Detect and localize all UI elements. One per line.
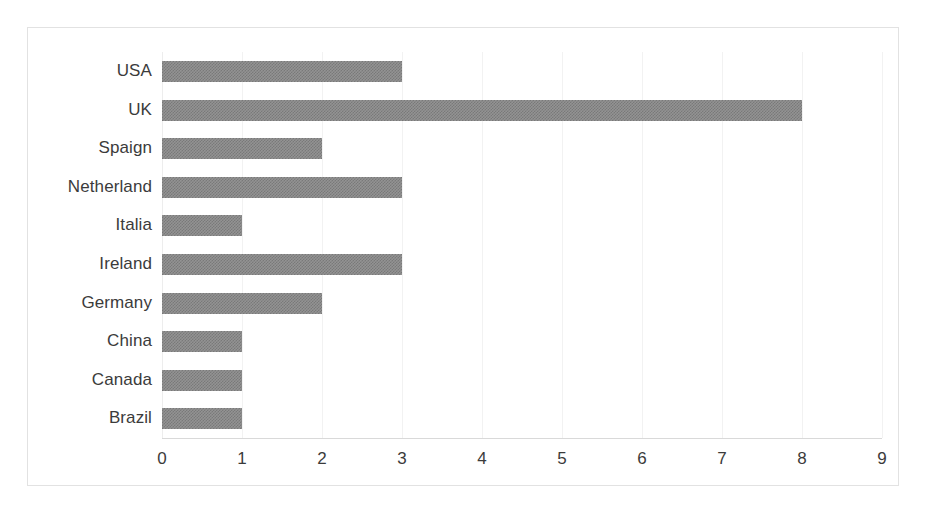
category-label: Netherland xyxy=(68,168,152,207)
chart-plot-frame: USAUKSpaignNetherlandItaliaIrelandGerman… xyxy=(27,27,899,486)
x-tick-label: 7 xyxy=(702,444,742,474)
category-label: Ireland xyxy=(99,245,152,284)
bar-row xyxy=(162,361,882,400)
bar-row xyxy=(162,168,882,207)
bar-row xyxy=(162,129,882,168)
bar-row xyxy=(162,284,882,323)
bar-row xyxy=(162,399,882,438)
bar-row xyxy=(162,245,882,284)
category-label: Brazil xyxy=(109,399,152,438)
bar[interactable] xyxy=(162,331,242,352)
x-tick-label: 5 xyxy=(542,444,582,474)
category-label: Italia xyxy=(115,206,152,245)
x-tick-label: 6 xyxy=(622,444,662,474)
bar-row xyxy=(162,206,882,245)
x-tick-label: 4 xyxy=(462,444,502,474)
bar[interactable] xyxy=(162,138,322,159)
chart-container: USAUKSpaignNetherlandItaliaIrelandGerman… xyxy=(0,0,927,516)
category-label: USA xyxy=(117,52,152,91)
x-tick-label: 0 xyxy=(142,444,182,474)
bar[interactable] xyxy=(162,408,242,429)
bar[interactable] xyxy=(162,100,802,121)
bar[interactable] xyxy=(162,215,242,236)
plot-area: USAUKSpaignNetherlandItaliaIrelandGerman… xyxy=(162,52,882,438)
x-axis-line xyxy=(162,438,882,439)
category-axis: USAUKSpaignNetherlandItaliaIrelandGerman… xyxy=(28,52,152,438)
x-tick-label: 3 xyxy=(382,444,422,474)
category-label: Germany xyxy=(81,284,152,323)
x-tick-label: 1 xyxy=(222,444,262,474)
bar[interactable] xyxy=(162,61,402,82)
x-tick-label: 8 xyxy=(782,444,822,474)
bar[interactable] xyxy=(162,254,402,275)
bar-row xyxy=(162,52,882,91)
bar[interactable] xyxy=(162,177,402,198)
bar-row xyxy=(162,91,882,130)
gridline-x-9 xyxy=(882,52,883,438)
category-label: Spaign xyxy=(98,129,152,168)
x-tick-label: 2 xyxy=(302,444,342,474)
bar-row xyxy=(162,322,882,361)
category-label: UK xyxy=(128,91,152,130)
category-label: Canada xyxy=(92,361,152,400)
x-tick-label: 9 xyxy=(862,444,902,474)
bar[interactable] xyxy=(162,293,322,314)
bar[interactable] xyxy=(162,370,242,391)
category-label: China xyxy=(107,322,152,361)
